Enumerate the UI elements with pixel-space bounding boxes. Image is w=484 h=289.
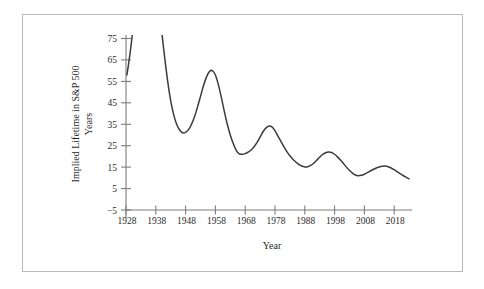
y-axis-title-units: Years <box>83 113 94 135</box>
y-tick-label-55: 55 <box>108 77 118 87</box>
y-tick-label-45: 45 <box>108 98 118 108</box>
x-tick-label-1948: 1948 <box>177 216 196 226</box>
figure-container: Implied Lifetime in S&P 500 Years Year 7… <box>0 0 484 289</box>
y-tick-label-25: 25 <box>108 141 118 151</box>
y-tick-label-75: 75 <box>108 34 118 44</box>
x-tick-label-1958: 1958 <box>207 216 226 226</box>
x-tick-label-1998: 1998 <box>326 216 345 226</box>
x-tick-label-1978: 1978 <box>267 216 286 226</box>
x-tick-label-1968: 1968 <box>237 216 256 226</box>
y-tick-label-minus5: −5 <box>107 206 117 216</box>
data-series-group <box>127 32 409 179</box>
y-tick-label-35: 35 <box>108 120 118 130</box>
x-axis-tick-labels: 1928 1938 1948 1958 1968 1978 1988 1998 … <box>118 216 405 226</box>
y-axis-tick-labels: 75 65 55 45 35 25 15 5 −5 <box>107 34 117 216</box>
x-tick-label-2008: 2008 <box>356 216 375 226</box>
x-tick-label-2018: 2018 <box>386 216 405 226</box>
x-tick-label-1988: 1988 <box>296 216 315 226</box>
x-tick-label-1938: 1938 <box>147 216 166 226</box>
data-curve-main-segment <box>162 32 409 179</box>
y-tick-label-5: 5 <box>112 184 117 194</box>
y-axis-title: Implied Lifetime in S&P 500 <box>70 66 81 183</box>
y-tick-label-15: 15 <box>108 163 118 173</box>
x-tick-label-1928: 1928 <box>118 216 137 226</box>
x-axis-title: Year <box>263 240 282 251</box>
line-chart: Implied Lifetime in S&P 500 Years Year 7… <box>0 0 484 289</box>
y-tick-label-65: 65 <box>108 55 118 65</box>
